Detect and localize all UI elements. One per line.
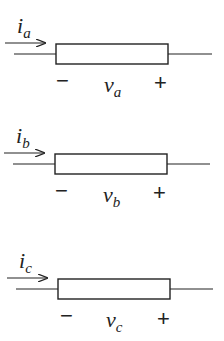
voltage-label-b: vb (103, 182, 121, 210)
element-a: ia − va + (5, 13, 212, 100)
minus-terminal: − (60, 303, 73, 328)
element-box (56, 44, 168, 64)
current-label-b: ib (16, 123, 30, 151)
current-label-c: ic (19, 248, 32, 276)
minus-terminal: − (56, 68, 69, 93)
current-label-a: ia (17, 13, 31, 41)
element-c: ic − vc + (7, 248, 213, 335)
voltage-label-c: vc (106, 307, 123, 335)
element-b: ib − vb + (4, 123, 210, 210)
plus-terminal: + (157, 306, 170, 331)
minus-terminal: − (55, 178, 68, 203)
plus-terminal: + (153, 180, 166, 205)
voltage-label-a: va (104, 72, 121, 100)
element-box (58, 279, 170, 299)
circuit-diagram: ia − va + ib − vb + ic − vc + (0, 0, 224, 341)
plus-terminal: + (154, 70, 167, 95)
element-box (55, 154, 167, 174)
